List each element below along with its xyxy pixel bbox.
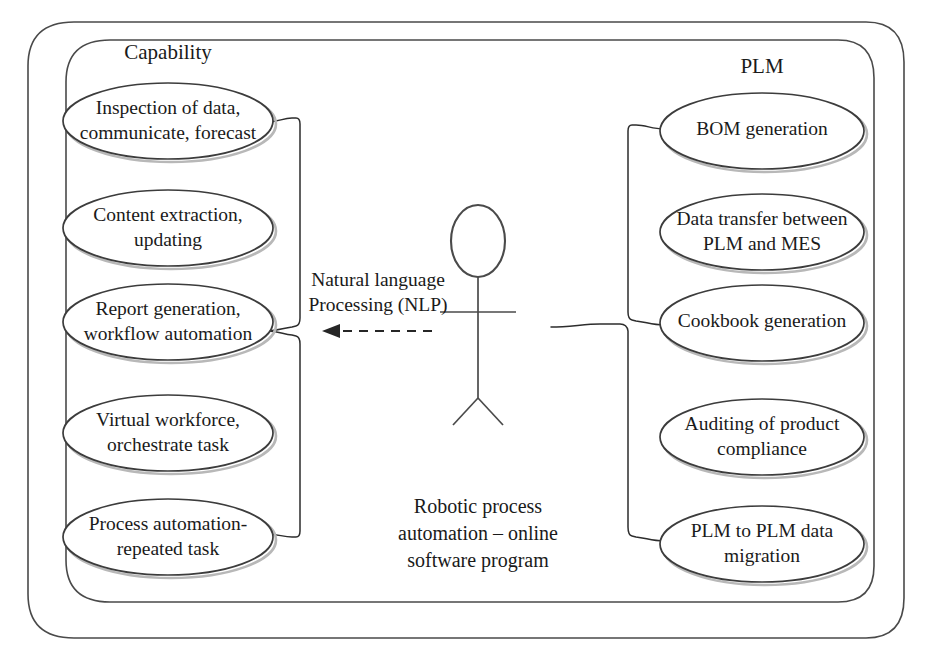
use-case-report-generation[interactable]: Report generation, workflow automation <box>63 284 276 363</box>
use-case-label-line1: Inspection of data, <box>96 97 241 118</box>
ellipse-shape <box>63 395 273 471</box>
use-case-label-line2: workflow automation <box>84 323 253 344</box>
use-case-data-transfer-plm-mes[interactable]: Data transfer between PLM and MES <box>660 194 867 273</box>
group-label-plm: PLM <box>740 54 784 78</box>
use-case-group-left: Inspection of data, communicate, forecas… <box>63 83 276 578</box>
use-case-auditing-product-compliance[interactable]: Auditing of product compliance <box>660 399 867 478</box>
use-case-label-line2: repeated task <box>117 538 220 559</box>
use-case-label-line2: migration <box>724 545 800 566</box>
use-case-label-line1: Data transfer between <box>676 208 847 229</box>
actor-leg-right <box>478 398 503 425</box>
caption-line1: Robotic process <box>414 495 543 518</box>
ellipse-shape <box>63 83 273 159</box>
use-case-label-line1: Auditing of product <box>685 413 840 434</box>
caption-line3: software program <box>407 549 549 572</box>
use-case-label-line2: PLM and MES <box>703 233 821 254</box>
use-case-inspection-of-data[interactable]: Inspection of data, communicate, forecas… <box>63 83 276 162</box>
use-case-label-line1: Virtual workforce, <box>96 409 240 430</box>
actor-head-icon <box>451 205 505 277</box>
edge-label-line1: Natural language <box>311 269 445 290</box>
use-case-process-automation[interactable]: Process automation- repeated task <box>63 499 276 578</box>
use-case-label-line2: orchestrate task <box>107 434 229 455</box>
group-label-capability: Capability <box>124 40 212 64</box>
ellipse-shape <box>63 499 273 575</box>
ellipse-shape <box>660 506 864 582</box>
use-case-label-line2: updating <box>134 229 202 250</box>
use-case-content-extraction[interactable]: Content extraction, updating <box>63 190 276 269</box>
caption-line2: automation – online <box>398 522 558 544</box>
use-case-label-line1: BOM generation <box>696 118 828 139</box>
use-case-plm-to-plm-migration[interactable]: PLM to PLM data migration <box>660 506 867 585</box>
use-case-label-line1: PLM to PLM data <box>691 520 834 541</box>
use-case-label-line2: communicate, forecast <box>80 122 257 143</box>
diagram-canvas: Capability PLM Inspection of data, commu… <box>0 0 934 662</box>
ellipse-shape <box>63 190 273 266</box>
use-case-bom-generation[interactable]: BOM generation <box>660 93 867 172</box>
use-case-virtual-workforce[interactable]: Virtual workforce, orchestrate task <box>63 395 276 474</box>
use-case-label-line1: Report generation, <box>95 298 240 319</box>
ellipse-shape <box>660 194 864 270</box>
use-case-group-right: BOM generation Data transfer between PLM… <box>660 93 867 585</box>
use-case-diagram: Capability PLM Inspection of data, commu… <box>0 0 934 662</box>
dependency-arrowhead-icon <box>322 324 340 338</box>
nlp-dependency-arrow <box>322 324 432 338</box>
actor-stick-figure[interactable] <box>440 205 516 425</box>
use-case-cookbook-generation[interactable]: Cookbook generation <box>660 285 867 364</box>
ellipse-shape <box>63 284 273 360</box>
caption-robotic-process-automation: Robotic process automation – online soft… <box>398 495 558 572</box>
use-case-label-line1: Content extraction, <box>93 204 242 225</box>
ellipse-shape <box>660 399 864 475</box>
edge-label-line2: Processing (NLP) <box>308 294 447 316</box>
use-case-label-line2: compliance <box>717 438 807 459</box>
right-connector-bracket <box>551 125 664 541</box>
use-case-label-line1: Process automation- <box>89 513 248 534</box>
actor-leg-left <box>453 398 478 425</box>
edge-label-nlp: Natural language Processing (NLP) <box>308 269 447 316</box>
use-case-label-line1: Cookbook generation <box>678 310 847 331</box>
